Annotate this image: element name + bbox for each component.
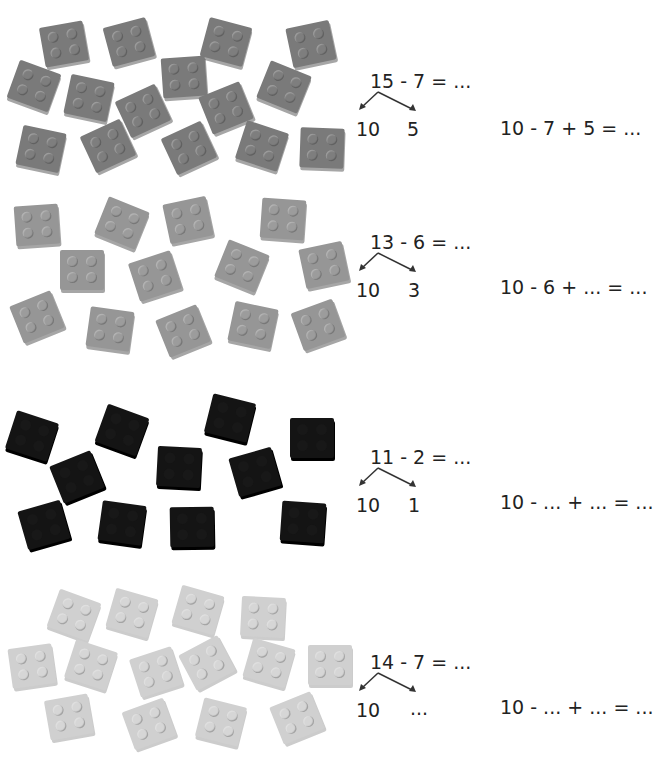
split-left-4: 10 xyxy=(356,699,380,721)
brick xyxy=(49,450,105,504)
brick xyxy=(44,693,94,740)
brick xyxy=(7,643,56,689)
brick xyxy=(227,301,278,349)
brick xyxy=(103,17,156,67)
brick xyxy=(6,60,61,113)
brick xyxy=(129,646,183,698)
brick xyxy=(161,121,218,176)
brick xyxy=(39,20,89,67)
arrow-icon xyxy=(358,251,428,275)
brick xyxy=(15,125,66,173)
brick xyxy=(97,500,146,546)
split-right-1: 5 xyxy=(407,118,419,140)
brick xyxy=(214,239,270,293)
brick xyxy=(17,500,70,551)
brick xyxy=(308,645,352,685)
brick xyxy=(94,404,149,457)
brick xyxy=(156,446,202,488)
brick xyxy=(280,501,327,544)
strategy-2: 10 - 6 + ... = ... xyxy=(500,276,647,298)
decomposition-arrows-3 xyxy=(358,466,428,490)
brick xyxy=(290,299,345,352)
brick xyxy=(14,204,61,247)
brick xyxy=(299,127,344,169)
brick xyxy=(162,196,213,244)
split-right-4: ... xyxy=(410,697,428,719)
split-right-3: 1 xyxy=(408,494,420,516)
brick xyxy=(242,638,295,689)
brick xyxy=(285,20,336,68)
brick xyxy=(269,691,325,745)
brick xyxy=(290,418,334,458)
brick xyxy=(235,120,289,172)
strategy-1: 10 - 7 + 5 = ... xyxy=(500,117,641,139)
split-left-3: 10 xyxy=(356,494,380,516)
strategy-3: 10 - ... + ... = ... xyxy=(500,491,653,513)
problem-3: 11 - 2 = ... xyxy=(370,446,471,468)
brick xyxy=(161,56,208,99)
brick xyxy=(121,698,176,751)
brick xyxy=(63,74,114,122)
brick xyxy=(171,585,224,636)
brick xyxy=(178,635,236,691)
arrow-icon xyxy=(358,466,428,490)
brick xyxy=(128,250,182,302)
brick xyxy=(200,17,253,67)
brick xyxy=(228,447,281,498)
problem-1: 15 - 7 = ... xyxy=(370,70,471,92)
strategy-4: 10 - ... + ... = ... xyxy=(500,696,653,718)
problem-2: 13 - 6 = ... xyxy=(370,231,471,253)
split-right-2: 3 xyxy=(408,279,420,301)
brick xyxy=(9,290,65,344)
brick xyxy=(170,507,215,548)
brick xyxy=(46,589,101,642)
split-left-1: 10 xyxy=(356,118,380,140)
brick xyxy=(204,393,256,442)
brick xyxy=(195,697,247,746)
split-left-2: 10 xyxy=(356,279,380,301)
decomposition-arrows-4 xyxy=(358,671,428,695)
brick xyxy=(94,196,150,250)
decomposition-arrows-2 xyxy=(358,251,428,275)
brick xyxy=(256,60,312,114)
decomposition-arrows-1 xyxy=(358,90,428,114)
brick xyxy=(298,241,349,289)
brick xyxy=(260,198,307,241)
brick xyxy=(60,250,104,290)
arrow-icon xyxy=(358,671,428,695)
problem-4: 14 - 7 = ... xyxy=(370,651,471,673)
brick xyxy=(85,306,134,352)
brick xyxy=(5,410,59,462)
brick xyxy=(105,588,158,639)
brick xyxy=(155,304,211,358)
brick xyxy=(240,596,286,638)
arrow-icon xyxy=(358,90,428,114)
brick xyxy=(64,639,118,691)
